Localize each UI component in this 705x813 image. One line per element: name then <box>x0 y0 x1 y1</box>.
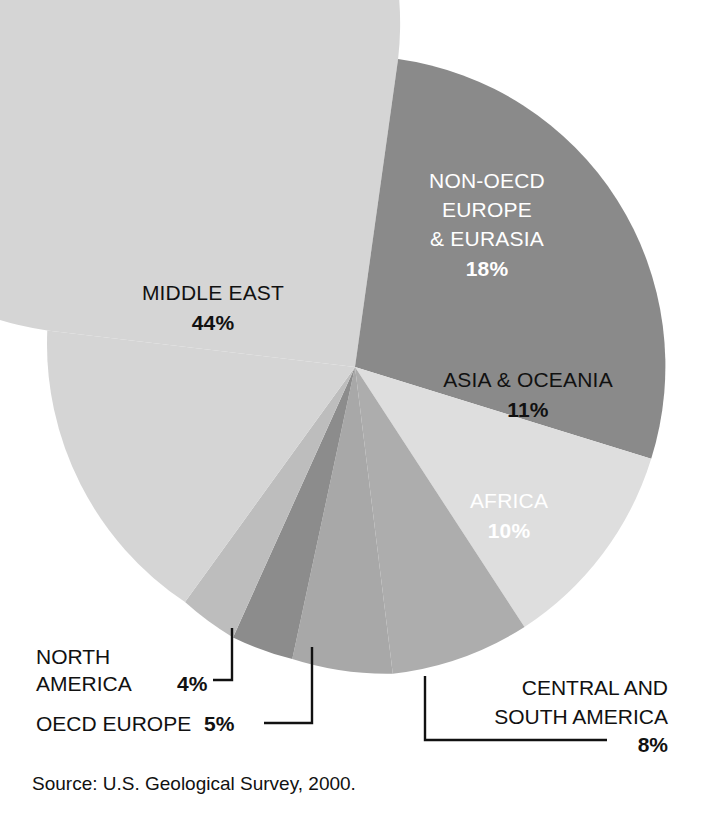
pie-chart: NON-OECD EUROPE & EURASIA 18% ASIA & OCE… <box>0 0 705 813</box>
callout-north-america-percent: 4% <box>177 672 208 695</box>
callout-central-south-america-line2: SOUTH AMERICA <box>494 705 668 728</box>
label-middle-east-line1: MIDDLE EAST <box>142 281 284 304</box>
label-africa-line1: AFRICA <box>470 489 548 512</box>
chart-page: NON-OECD EUROPE & EURASIA 18% ASIA & OCE… <box>0 0 705 813</box>
callout-central-south-america-line1: CENTRAL AND <box>522 676 668 699</box>
callout-oecd-europe-line1: OECD EUROPE <box>36 712 191 735</box>
label-asia-oceania-line1: ASIA & OCEANIA <box>443 368 613 391</box>
label-non-oecd-line1: NON-OECD <box>429 169 545 192</box>
callout-oecd-europe: OECD EUROPE 5% <box>36 712 235 735</box>
label-non-oecd-line3: & EURASIA <box>430 227 544 250</box>
leader-line-north-america <box>213 628 232 680</box>
label-non-oecd-line2: EUROPE <box>442 198 532 221</box>
callout-north-america: NORTH AMERICA 4% <box>36 645 208 695</box>
callout-central-south-america: CENTRAL AND SOUTH AMERICA 8% <box>494 676 668 756</box>
label-middle-east-percent: 44% <box>192 311 235 334</box>
label-africa-percent: 10% <box>488 519 531 542</box>
callout-north-america-line2: AMERICA <box>36 672 132 695</box>
pie-slices <box>0 0 665 674</box>
label-non-oecd-percent: 18% <box>466 257 509 280</box>
callout-central-south-america-percent: 8% <box>638 733 669 756</box>
callout-oecd-europe-percent: 5% <box>204 712 235 735</box>
source-note: Source: U.S. Geological Survey, 2000. <box>32 773 356 794</box>
label-asia-oceania-percent: 11% <box>507 398 549 421</box>
callout-north-america-line1: NORTH <box>36 645 110 668</box>
